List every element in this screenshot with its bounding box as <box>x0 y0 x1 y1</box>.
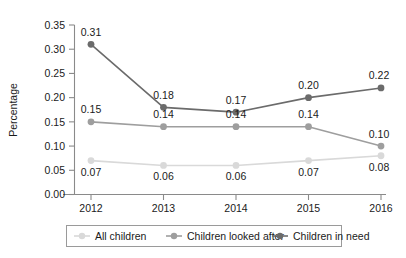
legend: All childrenChildren looked afterChildre… <box>74 230 370 242</box>
y-tick-label: 0.10 <box>45 140 66 152</box>
data-point-label: 0.22 <box>369 69 390 81</box>
data-point <box>305 123 312 130</box>
data-point-label: 0.20 <box>298 79 319 91</box>
legend-item-label: All children <box>95 230 147 242</box>
x-tick-label: 2014 <box>224 202 248 214</box>
x-tick-label: 2016 <box>369 202 393 214</box>
data-point <box>378 152 385 159</box>
y-tick-label: 0.00 <box>45 188 66 200</box>
data-point <box>305 157 312 164</box>
y-axis-ticks: 0.350.300.250.200.150.100.050.00 <box>45 19 75 201</box>
data-point-label: 0.31 <box>81 26 102 38</box>
data-point-label: 0.15 <box>81 103 102 115</box>
data-point-label: 0.06 <box>226 170 247 182</box>
data-point-label: 0.14 <box>153 108 174 120</box>
data-point <box>233 162 240 169</box>
y-tick-label: 0.05 <box>45 164 66 176</box>
x-tick-label: 2015 <box>297 202 321 214</box>
y-tick-label: 0.20 <box>45 91 66 103</box>
data-point-label: 0.14 <box>298 108 319 120</box>
data-point <box>160 162 167 169</box>
y-tick-label: 0.35 <box>45 19 66 31</box>
legend-marker-dot <box>277 233 283 239</box>
data-point <box>378 85 385 92</box>
data-point <box>88 118 95 125</box>
chart-canvas: Percentage 0.350.300.250.200.150.100.050… <box>0 0 406 258</box>
data-point-label: 0.07 <box>298 166 319 178</box>
data-point-label: 0.06 <box>153 170 174 182</box>
data-point <box>88 157 95 164</box>
data-point-label: 0.10 <box>369 128 390 140</box>
data-point-label: 0.08 <box>369 161 390 173</box>
data-point <box>305 94 312 101</box>
y-tick-label: 0.15 <box>45 116 66 128</box>
y-tick-label: 0.30 <box>45 43 66 55</box>
data-point-label: 0.17 <box>226 94 247 106</box>
legend-marker-dot <box>79 233 85 239</box>
x-tick-label: 2013 <box>152 202 176 214</box>
data-point <box>88 41 95 48</box>
x-axis-ticks: 20122013201420152016 <box>79 195 393 215</box>
data-point-label: 0.18 <box>153 89 174 101</box>
data-point <box>378 143 385 150</box>
y-axis-title: Percentage <box>7 83 19 137</box>
line-chart: Percentage 0.350.300.250.200.150.100.050… <box>0 0 406 258</box>
data-point-label: 0.07 <box>81 166 102 178</box>
y-tick-label: 0.25 <box>45 67 66 79</box>
data-point <box>233 123 240 130</box>
legend-item-label: Children looked after <box>187 230 284 242</box>
legend-marker-dot <box>171 233 177 239</box>
legend-item-label: Children in need <box>293 230 370 242</box>
x-tick-label: 2012 <box>79 202 103 214</box>
data-point <box>160 123 167 130</box>
data-point-label: 0.14 <box>226 108 247 120</box>
